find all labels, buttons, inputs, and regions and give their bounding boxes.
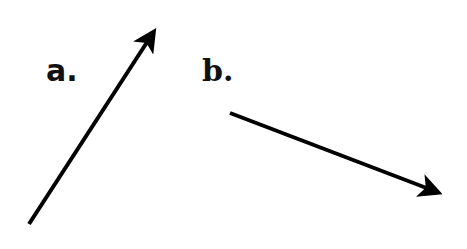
vector-diagram: a. b. bbox=[0, 0, 467, 249]
arrow-a bbox=[29, 33, 153, 224]
arrows-layer bbox=[0, 0, 467, 249]
arrow-b bbox=[230, 113, 437, 192]
